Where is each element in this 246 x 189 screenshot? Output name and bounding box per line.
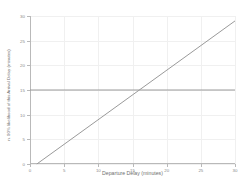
y-tick-label: 15 [20, 88, 25, 93]
y-tick-label: 0 [23, 162, 25, 167]
x-axis-title: Departure Delay (minutes) [30, 170, 235, 176]
y-axis-title: n. 90% likelihood of this Arrival Delay … [6, 49, 11, 141]
x-tick [30, 164, 31, 167]
x-tick [133, 164, 134, 167]
x-tick [64, 164, 65, 167]
y-tick-label: 5 [23, 137, 25, 142]
y-tick-label: 10 [20, 112, 25, 117]
plot-area: 051015202530051015202530 [30, 16, 235, 164]
chart-figure: n. 90% likelihood of this Arrival Delay … [0, 0, 246, 189]
x-tick [201, 164, 202, 167]
y-tick [27, 164, 30, 165]
x-tick [98, 164, 99, 167]
gridline-vertical [235, 16, 236, 164]
series-line-arrival-delay [37, 21, 235, 164]
series-layer [30, 16, 235, 164]
x-tick [235, 164, 236, 167]
y-tick-label: 25 [20, 38, 25, 43]
y-tick-label: 20 [20, 63, 25, 68]
y-tick-label: 30 [20, 14, 25, 19]
y-axis-title-container: n. 90% likelihood of this Arrival Delay … [0, 0, 16, 189]
x-tick [167, 164, 168, 167]
